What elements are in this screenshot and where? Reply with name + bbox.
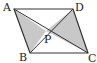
- parallelogram-diagram: A D B C P: [0, 0, 97, 63]
- shaded-triangle-apb: [14, 9, 46, 53]
- label-c: C: [88, 52, 96, 63]
- label-b: B: [19, 51, 27, 63]
- label-a: A: [2, 1, 12, 14]
- label-d: D: [75, 1, 84, 14]
- label-p: P: [44, 33, 52, 46]
